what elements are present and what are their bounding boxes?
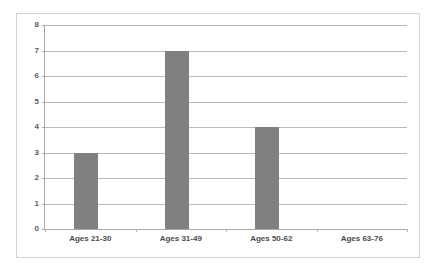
x-axis-category-label: Ages 50-62 [250,235,292,243]
y-axis-tick-mark [42,153,45,154]
gridline [45,76,407,77]
y-axis-tick-label: 6 [35,72,39,80]
bar-chart-figure: 012345678 Ages 21-30Ages 31-49Ages 50-62… [16,13,420,258]
gridline [45,204,407,205]
bar [165,51,189,230]
gridline [45,25,407,26]
y-axis-tick-mark [42,25,45,26]
y-axis-tick-label: 0 [35,225,39,233]
y-axis-tick-mark [42,127,45,128]
x-axis-tick-mark [317,229,318,232]
x-axis-category-label: Ages 21-30 [69,235,111,243]
y-axis-tick-label: 5 [35,98,39,106]
y-axis-tick-label: 3 [35,149,39,157]
y-axis-tick-label: 7 [35,47,39,55]
y-axis-tick-label: 8 [35,21,39,29]
y-axis-tick-mark [42,102,45,103]
bar [74,153,98,230]
x-axis-tick-mark [136,229,137,232]
y-axis-tick-label: 2 [35,174,39,182]
gridline [45,178,407,179]
y-axis-tick-mark [42,204,45,205]
bar [255,127,279,229]
x-axis-tick-mark [407,229,408,232]
x-axis-tick-mark [226,229,227,232]
y-axis-tick-mark [42,178,45,179]
x-axis-category-label: Ages 63-76 [341,235,383,243]
y-axis-tick-mark [42,76,45,77]
y-axis-tick-label: 1 [35,200,39,208]
y-axis-tick-label: 4 [35,123,39,131]
x-axis-category-label: Ages 31-49 [160,235,202,243]
gridline [45,127,407,128]
plot-area: 012345678 Ages 21-30Ages 31-49Ages 50-62… [45,25,407,229]
gridline [45,51,407,52]
gridline [45,153,407,154]
gridline [45,102,407,103]
y-axis-tick-mark [42,51,45,52]
x-axis-tick-mark [45,229,46,232]
